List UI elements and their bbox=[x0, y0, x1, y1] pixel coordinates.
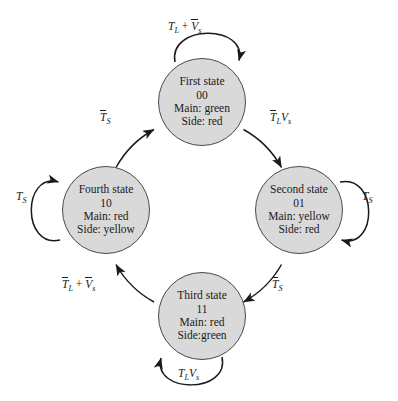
state-fourth-code: 10 bbox=[100, 197, 112, 210]
state-third-code: 11 bbox=[196, 303, 207, 316]
edge-label-self-third: TLVs bbox=[178, 367, 199, 381]
state-node-first: First state 00 Main: green Side: red bbox=[158, 58, 246, 146]
edge-label-first-to-second: TLVs bbox=[270, 110, 291, 125]
state-second-side: Side: red bbox=[278, 223, 319, 236]
state-third-name: Third state bbox=[177, 289, 227, 302]
state-second-code: 01 bbox=[293, 197, 305, 210]
state-node-fourth: Fourth state 10 Main: red Side: yellow bbox=[62, 166, 150, 254]
state-fourth-main: Main: red bbox=[83, 210, 128, 223]
state-diagram-figure: First state 00 Main: green Side: red Sec… bbox=[0, 0, 398, 401]
self-loop-fourth bbox=[31, 181, 60, 241]
edge-label-self-fourth: TS bbox=[16, 190, 27, 204]
state-node-third: Third state 11 Main: red Side:green bbox=[158, 272, 246, 360]
state-second-name: Second state bbox=[270, 183, 328, 196]
edge-third-to-fourth bbox=[116, 265, 154, 303]
edge-label-self-second: TS bbox=[362, 190, 373, 204]
edge-label-self-first: TL + Vs bbox=[168, 19, 201, 34]
state-first-side: Side: red bbox=[181, 115, 222, 128]
edge-label-third-to-fourth: TL + Vs bbox=[62, 277, 95, 292]
edge-first-to-second bbox=[244, 130, 282, 168]
edge-label-second-to-third: TS bbox=[272, 277, 283, 292]
state-first-name: First state bbox=[179, 75, 224, 88]
state-node-second: Second state 01 Main: yellow Side: red bbox=[255, 166, 343, 254]
state-first-main: Main: green bbox=[174, 102, 230, 115]
state-third-side: Side:green bbox=[177, 329, 226, 342]
state-third-main: Main: red bbox=[179, 316, 224, 329]
edge-label-fourth-to-first: TS bbox=[100, 110, 111, 125]
state-first-code: 00 bbox=[196, 89, 208, 102]
state-second-main: Main: yellow bbox=[268, 210, 330, 223]
state-fourth-side: Side: yellow bbox=[77, 223, 135, 236]
state-fourth-name: Fourth state bbox=[79, 183, 134, 196]
edge-fourth-to-first bbox=[116, 130, 154, 168]
